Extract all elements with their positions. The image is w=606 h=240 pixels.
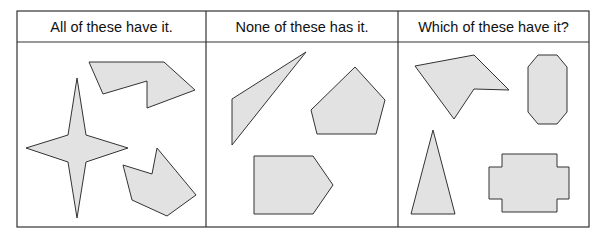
isosceles-triangle [411,130,455,214]
column-header-which-have: Which of these have it? [398,11,589,42]
cross-dodecagon [489,154,569,212]
concave-pentagon [415,55,509,119]
obtuse-triangle [232,52,306,145]
house-pentagon [254,156,333,214]
octagon [528,55,567,124]
column-header-all-have: All of these have it. [17,11,206,42]
pentagon [311,67,385,134]
concave-hexagon-top [89,62,195,108]
four-point-star [26,78,128,218]
column-header-none-have: None of these has it. [206,11,398,42]
concave-hexagon-bottom [123,148,196,216]
